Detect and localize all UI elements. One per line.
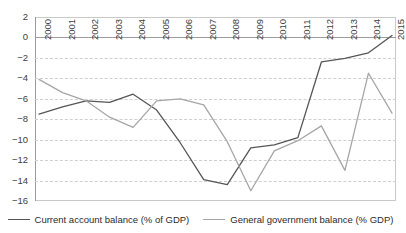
x-axis-tick-label: 2010 [278, 0, 288, 40]
legend-swatch-icon-general-government [203, 219, 225, 220]
x-axis-tick-label: 2007 [208, 0, 218, 40]
x-axis-tick-label: 2000 [43, 0, 53, 40]
y-axis-tick-label: −4 [0, 73, 28, 83]
x-axis-tick-labels: 2000200120022003200420052006200720082009… [35, 0, 396, 233]
y-axis-tick-label: −10 [0, 135, 28, 145]
y-axis-tick-label: −8 [0, 114, 28, 124]
legend-swatch-icon-current-account [8, 219, 30, 220]
x-axis-tick-label: 2011 [302, 0, 312, 40]
x-axis-tick-label: 2008 [231, 0, 241, 40]
x-axis-tick-label: 2002 [90, 0, 100, 40]
legend-item-current-account: Current account balance (% of GDP) [8, 214, 190, 225]
y-axis-tick-label: 0 [0, 32, 28, 42]
x-axis-tick-label: 2013 [349, 0, 359, 40]
x-axis-tick-label: 2003 [114, 0, 124, 40]
y-axis-tick-label: −16 [0, 196, 28, 206]
chart-legend: Current account balance (% of GDP) Gener… [0, 207, 401, 231]
x-axis-tick-label: 2004 [137, 0, 147, 40]
y-axis-tick-label: −12 [0, 155, 28, 165]
y-axis-tick-label: −2 [0, 53, 28, 63]
x-axis-tick-label: 2012 [325, 0, 335, 40]
x-axis-tick-label: 2006 [184, 0, 194, 40]
x-axis-tick-label: 2009 [255, 0, 265, 40]
y-axis-tick-label: −14 [0, 176, 28, 186]
y-axis-tick-label: −6 [0, 94, 28, 104]
legend-label-current-account: Current account balance (% of GDP) [35, 214, 190, 225]
legend-item-general-government: General government balance (% GDP) [203, 214, 393, 225]
y-axis-tick-label: 2 [0, 12, 28, 22]
x-axis-tick-label: 2015 [396, 0, 406, 40]
legend-label-general-government: General government balance (% GDP) [230, 214, 393, 225]
x-axis-tick-label: 2005 [161, 0, 171, 40]
x-axis-tick-label: 2001 [67, 0, 77, 40]
x-axis-tick-label: 2014 [372, 0, 382, 40]
